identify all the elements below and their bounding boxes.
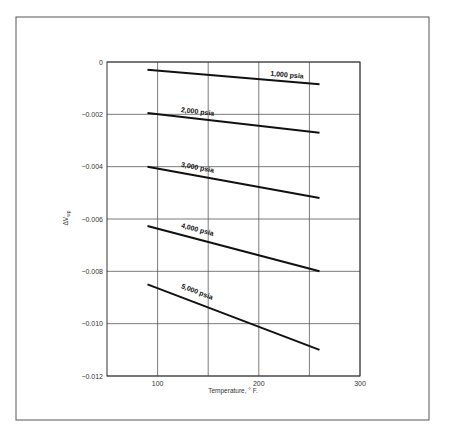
y-tick-label: −0.006 (81, 216, 103, 223)
series-label: 2,000 psia (180, 106, 214, 118)
x-tick-label: 200 (253, 380, 265, 387)
series-labels: 1,000 psia2,000 psia3,000 psia4,000 psia… (180, 70, 304, 302)
y-tick-label: 0 (99, 59, 103, 66)
series-line (147, 226, 319, 271)
series-label: 1,000 psia (270, 70, 304, 81)
series-line (147, 167, 319, 198)
grid (107, 62, 360, 376)
chart: 0−0.002−0.004−0.006−0.008−0.010−0.012100… (0, 0, 449, 436)
figure-frame (16, 17, 429, 420)
y-tick-label: −0.010 (81, 320, 103, 327)
axes: 0−0.002−0.004−0.006−0.008−0.010−0.012100… (81, 59, 366, 388)
y-tick-label: −0.002 (81, 111, 103, 118)
x-tick-label: 300 (354, 380, 366, 387)
y-tick-label: −0.012 (81, 373, 103, 380)
y-axis-label: ΔVwp (62, 210, 71, 225)
series-line (147, 284, 319, 349)
svg-text:ΔVwp: ΔVwp (62, 210, 71, 225)
series-lines (147, 70, 319, 350)
series-line (147, 113, 319, 133)
x-tick-label: 100 (152, 380, 164, 387)
y-tick-label: −0.004 (81, 163, 103, 170)
y-tick-label: −0.008 (81, 268, 103, 275)
x-axis-label: Temperature, ° F. (208, 387, 258, 395)
